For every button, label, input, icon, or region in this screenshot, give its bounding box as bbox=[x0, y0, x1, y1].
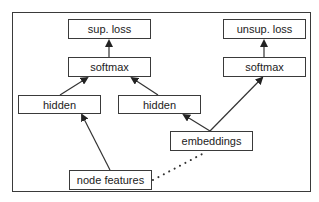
node-hidden-mid: hidden bbox=[118, 95, 201, 114]
node-label: hidden bbox=[143, 99, 176, 111]
node-label: softmax bbox=[90, 61, 129, 73]
node-label: softmax bbox=[245, 61, 284, 73]
edge-node-features-to-embeddings-dotted bbox=[153, 152, 206, 180]
node-softmax-right: softmax bbox=[223, 57, 306, 77]
edge-embeddings-to-hidden-mid bbox=[184, 115, 210, 131]
node-label: unsup. loss bbox=[237, 23, 293, 35]
node-hidden-left: hidden bbox=[18, 95, 101, 114]
node-node-features: node features bbox=[69, 170, 152, 190]
node-label: node features bbox=[77, 174, 144, 186]
node-label: sup. loss bbox=[88, 23, 131, 35]
node-unsup-loss: unsup. loss bbox=[223, 19, 306, 39]
node-softmax-left: softmax bbox=[68, 57, 151, 77]
edge-hidden-left-to-softmax-left bbox=[60, 78, 87, 95]
edge-hidden-mid-to-softmax-left bbox=[132, 78, 158, 95]
node-label: embeddings bbox=[182, 135, 242, 147]
node-sup-loss: sup. loss bbox=[68, 19, 151, 39]
node-embeddings: embeddings bbox=[170, 131, 253, 151]
edge-embeddings-to-softmax-right bbox=[210, 78, 262, 131]
node-label: hidden bbox=[43, 99, 76, 111]
edge-node-features-to-hidden-left bbox=[82, 115, 110, 170]
